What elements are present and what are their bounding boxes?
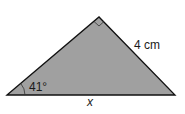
triangle-diagram: 41° 4 cm x [0,0,185,114]
side-length-label: 4 cm [134,38,160,52]
base-label: x [86,95,94,109]
angle-label: 41° [29,80,47,94]
